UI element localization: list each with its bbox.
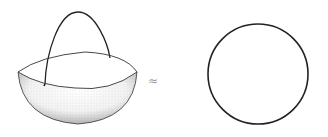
handle-loop [45, 12, 110, 84]
handle-front [44, 84, 45, 86]
hemisphere-bowl [0, 52, 150, 130]
approx-symbol: ≈ [148, 75, 158, 87]
diagram-canvas [0, 0, 328, 137]
circle [208, 24, 308, 124]
